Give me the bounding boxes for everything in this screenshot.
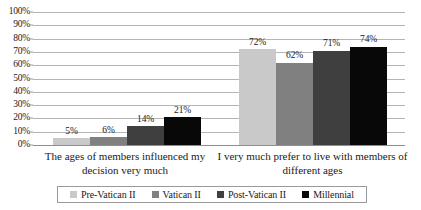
bar[interactable] [127,126,164,145]
legend-item-pre-vatican-ii[interactable]: Pre-Vatican II [70,190,135,200]
y-axis-tick-label: 40% [13,87,30,97]
y-axis-tick-label: 30% [13,100,30,110]
bar-group: 72%62%71%74% [239,12,387,145]
y-axis-tick-label: 80% [13,34,30,44]
legend-label: Post-Vatican II [228,190,286,200]
bar-slot: 21% [164,12,201,145]
y-axis: 100%90%80%70%60%50%40%30%20%10%0% [0,12,33,146]
bar-slot: 14% [127,12,164,145]
chart-legend: Pre-Vatican IIVatican IIPost-Vatican IIM… [57,186,367,203]
legend-swatch-icon [152,191,159,198]
bar-slot: 5% [53,12,90,145]
bar[interactable] [239,49,276,145]
bar[interactable] [313,51,350,145]
y-axis-tick-label: 10% [13,127,30,137]
legend-swatch-icon [70,191,77,198]
bar-value-label: 62% [286,51,303,61]
bar[interactable] [164,117,201,145]
bar-chart: 100%90%80%70%60%50%40%30%20%10%0% 5%6%14… [0,0,421,210]
bar-slot: 62% [276,12,313,145]
legend-item-millennial[interactable]: Millennial [302,190,354,200]
y-axis-tick-label: 60% [13,60,30,70]
bar-slot: 71% [313,12,350,145]
bar-value-label: 14% [137,115,154,125]
category-label: The ages of members influenced my decisi… [30,150,220,177]
y-axis-tick-label: 70% [13,47,30,57]
y-axis-tick-label: 20% [13,114,30,124]
bar-value-label: 72% [249,38,266,48]
bar[interactable] [90,137,127,145]
bar-value-label: 21% [174,106,191,116]
bar-slot: 6% [90,12,127,145]
y-axis-tick-label: 100% [9,7,30,17]
bar-group: 5%6%14%21% [53,12,201,145]
bar-value-label: 5% [65,127,77,137]
bar-slot: 72% [239,12,276,145]
bar-slot: 74% [350,12,387,145]
bar-value-label: 74% [360,35,377,45]
legend-swatch-icon [217,191,224,198]
axis-baseline [33,145,405,146]
y-axis-tick-label: 90% [13,21,30,31]
bar[interactable] [350,47,387,145]
legend-swatch-icon [302,191,309,198]
bar[interactable] [276,63,313,145]
y-axis-tick-label: 50% [13,74,30,84]
plot-area: 5%6%14%21% 72%62%71%74% [33,12,405,146]
legend-item-post-vatican-ii[interactable]: Post-Vatican II [217,190,286,200]
legend-label: Millennial [313,190,354,200]
category-label: I very much prefer to live with members … [215,150,410,177]
bar-value-label: 71% [323,39,340,49]
bar[interactable] [53,138,90,145]
legend-label: Vatican II [163,190,201,200]
bar-value-label: 6% [102,126,114,136]
legend-label: Pre-Vatican II [81,190,135,200]
legend-item-vatican-ii[interactable]: Vatican II [152,190,201,200]
